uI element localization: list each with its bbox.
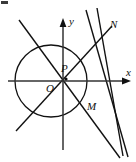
- origin-label: O: [46, 83, 54, 94]
- point-label-m: M: [87, 101, 96, 112]
- point-label-p: P: [61, 63, 68, 74]
- y-axis-label: y: [69, 16, 74, 27]
- point-p-dot: [64, 77, 67, 80]
- x-axis-label: x: [126, 67, 131, 78]
- line-falling-diagonal: [19, 20, 120, 158]
- x-axis-arrowhead: [122, 78, 131, 85]
- point-label-n: N: [110, 19, 117, 30]
- geometry-figure: x y O P M N: [0, 0, 136, 162]
- scan-artifact-mark: [1, 1, 8, 4]
- line-pn: [97, 8, 123, 156]
- y-axis-arrowhead: [60, 18, 67, 27]
